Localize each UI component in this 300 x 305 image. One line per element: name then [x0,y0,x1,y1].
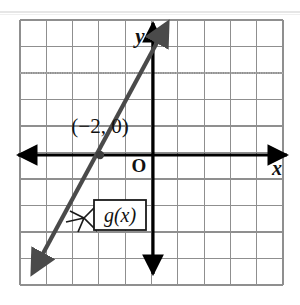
graph-figure: (−2, 0) y x O g(x) [0,0,300,305]
x-axis-label: x [271,157,282,179]
origin-label: O [132,155,147,176]
x-intercept-point-marker [96,151,104,159]
point-label: (−2, 0) [71,114,128,138]
function-label: g(x) [104,204,137,227]
